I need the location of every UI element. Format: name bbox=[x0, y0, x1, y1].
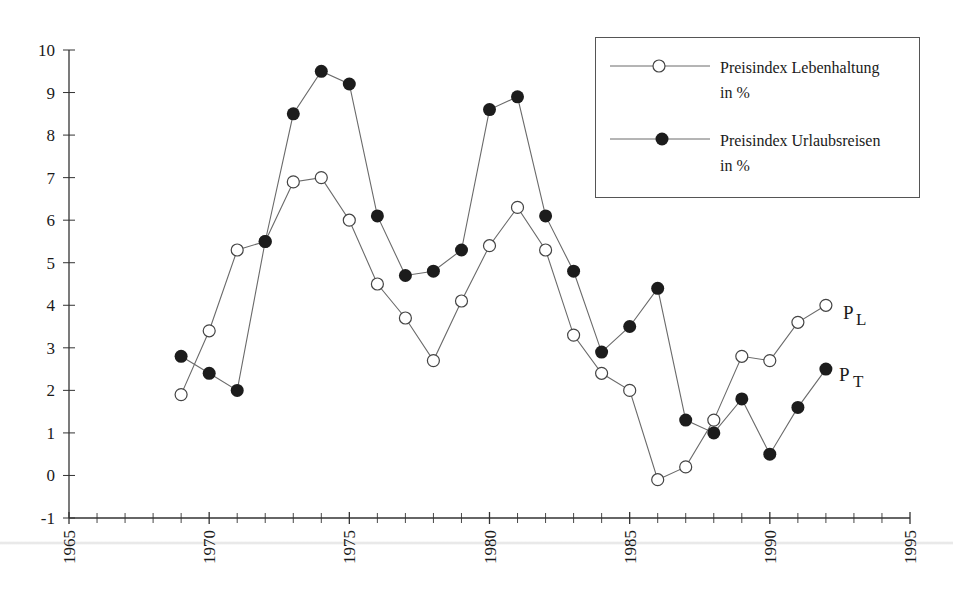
open-circle-marker-icon bbox=[680, 461, 692, 473]
legend-label-unit: in % bbox=[720, 84, 750, 101]
filled-circle-marker-icon bbox=[511, 90, 524, 103]
legend-label: Preisindex Urlaubsreisen bbox=[720, 132, 880, 149]
pt-label: P bbox=[839, 364, 850, 385]
y-tick-label: 1 bbox=[47, 424, 56, 443]
y-tick-label: 7 bbox=[47, 169, 56, 188]
filled-circle-marker-icon bbox=[231, 384, 244, 397]
open-circle-marker-icon bbox=[456, 295, 468, 307]
filled-circle-marker-icon bbox=[175, 350, 188, 363]
y-tick-label: 9 bbox=[47, 84, 56, 103]
pl-label-subscript: L bbox=[856, 310, 866, 329]
open-circle-marker-icon bbox=[399, 312, 411, 324]
legend-label-unit: in % bbox=[720, 157, 750, 174]
y-tick-label: 2 bbox=[47, 381, 56, 400]
open-circle-marker-icon bbox=[512, 201, 524, 213]
open-circle-marker-icon bbox=[596, 367, 608, 379]
y-tick-label: -1 bbox=[41, 509, 55, 528]
filled-circle-marker-icon bbox=[595, 346, 608, 359]
open-circle-marker-icon bbox=[792, 316, 804, 328]
filled-circle-marker-icon bbox=[791, 401, 804, 414]
open-circle-marker-icon bbox=[764, 355, 776, 367]
filled-circle-marker-icon bbox=[427, 265, 440, 278]
filled-circle-marker-icon bbox=[259, 235, 272, 248]
open-circle-marker-icon bbox=[653, 60, 665, 72]
filled-circle-marker-icon bbox=[483, 103, 496, 116]
open-circle-marker-icon bbox=[624, 384, 636, 396]
y-tick-label: 3 bbox=[47, 339, 56, 358]
x-tick-label: 1995 bbox=[901, 530, 920, 564]
filled-circle-marker-icon bbox=[679, 414, 692, 427]
open-circle-marker-icon bbox=[315, 172, 327, 184]
filled-circle-marker-icon bbox=[707, 426, 720, 439]
open-circle-marker-icon bbox=[343, 214, 355, 226]
open-circle-marker-icon bbox=[708, 414, 720, 426]
y-tick-label: 5 bbox=[47, 254, 56, 273]
line-chart: 109876543210-119651970197519801985199019… bbox=[0, 0, 953, 609]
open-circle-marker-icon bbox=[175, 389, 187, 401]
filled-circle-marker-icon bbox=[656, 133, 669, 146]
x-tick-label: 1965 bbox=[60, 530, 79, 564]
filled-circle-marker-icon bbox=[371, 209, 384, 222]
y-tick-label: 8 bbox=[47, 126, 56, 145]
filled-circle-marker-icon bbox=[539, 209, 552, 222]
y-tick-label: 4 bbox=[47, 296, 56, 315]
pl-label: P bbox=[843, 302, 854, 323]
legend: Preisindex Lebenhaltung in % Preisindex … bbox=[596, 38, 920, 198]
filled-circle-marker-icon bbox=[567, 265, 580, 278]
legend-label: Preisindex Lebenhaltung bbox=[720, 59, 880, 77]
filled-circle-marker-icon bbox=[623, 320, 636, 333]
open-circle-marker-icon bbox=[484, 240, 496, 252]
series-end-label-pl: P L bbox=[843, 302, 866, 329]
filled-circle-marker-icon bbox=[203, 367, 216, 380]
x-tick-label: 1990 bbox=[761, 530, 780, 564]
filled-circle-marker-icon bbox=[651, 282, 664, 295]
open-circle-marker-icon bbox=[736, 350, 748, 362]
filled-circle-marker-icon bbox=[763, 448, 776, 461]
open-circle-marker-icon bbox=[652, 474, 664, 486]
x-tick-label: 1985 bbox=[621, 530, 640, 564]
y-tick-label: 10 bbox=[38, 41, 55, 60]
x-tick-label: 1975 bbox=[340, 530, 359, 564]
series-end-label-pt: P T bbox=[839, 364, 864, 391]
open-circle-marker-icon bbox=[427, 355, 439, 367]
open-circle-marker-icon bbox=[371, 278, 383, 290]
filled-circle-marker-icon bbox=[343, 78, 356, 91]
filled-circle-marker-icon bbox=[287, 107, 300, 120]
open-circle-marker-icon bbox=[203, 325, 215, 337]
x-tick-label: 1980 bbox=[481, 530, 500, 564]
y-tick-label: 6 bbox=[47, 211, 56, 230]
x-tick-label: 1970 bbox=[200, 530, 219, 564]
open-circle-marker-icon bbox=[540, 244, 552, 256]
series-line-lebenhaltung bbox=[181, 178, 826, 480]
filled-circle-marker-icon bbox=[735, 392, 748, 405]
filled-circle-marker-icon bbox=[819, 363, 832, 376]
filled-circle-marker-icon bbox=[399, 269, 412, 282]
y-tick-label: 0 bbox=[47, 466, 56, 485]
open-circle-marker-icon bbox=[231, 244, 243, 256]
pt-label-subscript: T bbox=[853, 372, 864, 391]
open-circle-marker-icon bbox=[287, 176, 299, 188]
open-circle-marker-icon bbox=[820, 299, 832, 311]
filled-circle-marker-icon bbox=[455, 244, 468, 257]
filled-circle-marker-icon bbox=[315, 65, 328, 78]
open-circle-marker-icon bbox=[568, 329, 580, 341]
